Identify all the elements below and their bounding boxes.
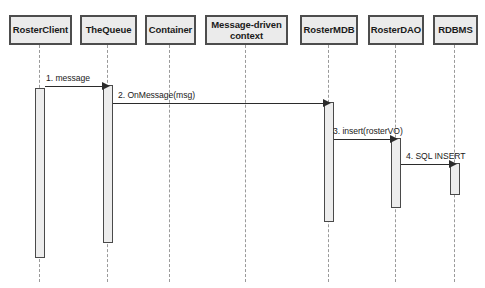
message-line-2 [113, 103, 324, 104]
participant-thequeue[interactable]: TheQueue [80, 15, 137, 45]
activation-bar-thequeue [103, 85, 113, 243]
message-line-4 [401, 164, 450, 165]
message-label-4: 4. SQL INSERT [406, 151, 466, 161]
participant-label: RosterMDB [302, 24, 357, 35]
message-line-1 [45, 86, 103, 87]
participant-rdbms[interactable]: RDBMS [433, 15, 478, 45]
activation-bar-rosterdao [391, 138, 401, 208]
message-label-3: 3. insert(rosterVO) [333, 126, 403, 136]
lifeline-container [169, 45, 170, 282]
activation-bar-rostermdb [324, 102, 334, 222]
participant-message-driven-context[interactable]: Message-driven context [205, 15, 288, 45]
participant-rosterdao[interactable]: RosterDAO [368, 15, 424, 45]
message-label-1: 1. message [46, 73, 90, 83]
message-arrowhead-4 [449, 160, 457, 168]
message-arrowhead-3 [390, 135, 398, 143]
participant-label: TheQueue [84, 24, 134, 35]
participant-label: RosterDAO [369, 24, 423, 35]
participant-container[interactable]: Container [145, 15, 196, 45]
message-line-3 [334, 139, 391, 140]
participant-label: RosterClient [11, 24, 70, 35]
message-label-2: 2. OnMessage(msg) [118, 90, 195, 100]
participant-label: Container [147, 24, 194, 35]
participant-rostermdb[interactable]: RosterMDB [300, 15, 358, 45]
message-arrowhead-2 [323, 99, 331, 107]
message-arrowhead-1 [102, 82, 110, 90]
activation-bar-rosterclient [35, 88, 45, 258]
participant-label: Message-driven context [207, 19, 286, 41]
participant-rosterclient[interactable]: RosterClient [9, 15, 72, 45]
participant-label: RDBMS [436, 24, 474, 35]
lifeline-message-driven-context [245, 45, 246, 282]
sequence-diagram-canvas: 1. message2. OnMessage(msg)3. insert(ros… [0, 0, 485, 288]
